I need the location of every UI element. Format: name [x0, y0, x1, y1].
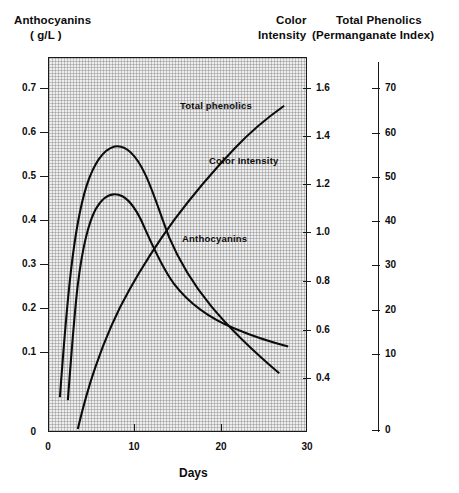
right-axis-tick	[372, 177, 380, 178]
right-axis-tick	[372, 430, 380, 431]
right-axis-label: 50	[385, 171, 396, 182]
x-axis-label: 0	[45, 441, 51, 452]
right-axis-label: 10	[385, 348, 396, 359]
left-axis-tick	[40, 308, 48, 309]
curve-color-intensity	[68, 194, 288, 400]
right-axis-tick	[372, 354, 380, 355]
mid-axis-tick	[303, 281, 311, 282]
left-axis-label: 0.6	[6, 126, 36, 137]
left-axis-title-line1: Anthocyanins	[14, 14, 91, 26]
curve-label-total-phenolics: Total phenolics	[180, 100, 252, 111]
right-axis-line	[378, 62, 379, 432]
mid-axis-tick	[303, 136, 311, 137]
left-axis-label: 0	[6, 426, 36, 437]
x-axis-tick	[221, 424, 222, 432]
right-axis-title-line2: (Permanganate Index)	[312, 29, 434, 41]
mid-axis-tick	[303, 88, 311, 89]
mid-axis-label: 0.4	[316, 372, 330, 383]
x-axis-title: Days	[179, 466, 208, 480]
x-axis-label: 20	[215, 441, 226, 452]
right-axis-label: 20	[385, 304, 396, 315]
left-axis-tick	[40, 88, 48, 89]
right-axis-tick	[372, 88, 380, 89]
right-axis-label: 30	[385, 259, 396, 270]
right-axis-label: 0	[385, 424, 391, 435]
left-axis-label: 0.3	[6, 258, 36, 269]
curve-label-anthocyanins: Anthocyanins	[182, 233, 247, 244]
x-axis-tick	[134, 424, 135, 432]
mid-axis-label: 1.0	[316, 226, 330, 237]
right-axis-label: 40	[385, 215, 396, 226]
plot-area	[48, 57, 307, 432]
curve-anthocyanins	[60, 146, 279, 397]
mid-axis-label: 1.4	[316, 130, 330, 141]
left-axis-label: 0.2	[6, 302, 36, 313]
x-axis-tick	[48, 424, 49, 432]
chart-figure: Anthocyanins ( g/L ) Color Intensity Tot…	[0, 0, 459, 493]
mid-axis-tick	[303, 378, 311, 379]
x-axis-label: 10	[128, 441, 139, 452]
right-axis-tick	[372, 310, 380, 311]
left-axis-label: 0.5	[6, 170, 36, 181]
x-axis-label: 30	[301, 441, 312, 452]
mid-axis-tick	[303, 232, 311, 233]
mid-axis-label: 1.2	[316, 178, 330, 189]
right-axis-tick	[372, 265, 380, 266]
left-axis-label: 0.1	[6, 346, 36, 357]
right-axis-label: 60	[385, 127, 396, 138]
left-axis-tick	[40, 352, 48, 353]
mid-axis-tick	[303, 330, 311, 331]
left-axis-tick	[40, 220, 48, 221]
left-axis-tick	[40, 264, 48, 265]
mid-axis-title-line1: Color	[276, 14, 307, 26]
mid-axis-label: 0.8	[316, 275, 330, 286]
mid-axis-label: 0.6	[316, 324, 330, 335]
curves-group	[49, 58, 306, 431]
right-axis-title-line1: Total Phenolics	[336, 14, 422, 26]
right-axis-tick	[372, 133, 380, 134]
mid-axis-tick	[303, 184, 311, 185]
curve-label-color-intensity: Color Intensity	[209, 155, 279, 166]
right-axis-tick	[372, 221, 380, 222]
left-axis-tick	[40, 132, 48, 133]
left-axis-tick	[40, 176, 48, 177]
right-axis-label: 70	[385, 82, 396, 93]
left-axis-title-line2: ( g/L )	[30, 29, 62, 41]
mid-axis-title-line2: Intensity	[258, 29, 306, 41]
mid-axis-label: 1.6	[316, 82, 330, 93]
left-axis-label: 0.7	[6, 82, 36, 93]
left-axis-label: 0.4	[6, 214, 36, 225]
